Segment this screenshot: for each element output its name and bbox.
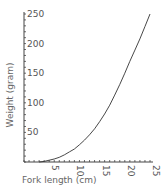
weight-curve bbox=[39, 14, 150, 162]
length-weight-chart: 50100150200250 510152025 Weight (gram) F… bbox=[0, 0, 163, 188]
x-tick-label: 15 bbox=[101, 165, 111, 176]
y-axis-ticks: 50100150200250 bbox=[24, 9, 44, 162]
y-tick-label: 50 bbox=[27, 127, 39, 137]
y-axis-title: Weight (gram) bbox=[5, 63, 15, 128]
y-tick-label: 150 bbox=[27, 68, 44, 78]
x-axis-title: Fork length (cm) bbox=[22, 175, 96, 185]
y-tick-label: 100 bbox=[27, 98, 44, 108]
axes bbox=[24, 12, 153, 162]
x-tick-label: 25 bbox=[151, 165, 161, 176]
y-tick-label: 250 bbox=[27, 9, 44, 19]
x-tick-label: 20 bbox=[126, 165, 136, 177]
y-tick-label: 200 bbox=[27, 39, 44, 49]
x-tick-label: 5 bbox=[50, 165, 60, 171]
